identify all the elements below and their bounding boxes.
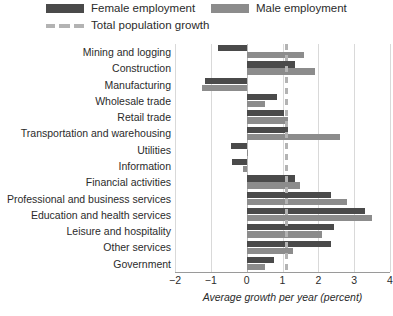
legend-swatch-male-icon (211, 4, 249, 13)
bar-male (247, 101, 265, 107)
legend-label-male: Male employment (256, 3, 347, 15)
bar-row (175, 44, 390, 60)
category-label: Leisure and hospitality (0, 223, 171, 239)
legend-label-female: Female employment (91, 3, 195, 15)
bar-female (247, 224, 335, 230)
x-tick-label: 4 (387, 274, 393, 286)
bar-row (175, 223, 390, 239)
bar-row (175, 174, 390, 190)
x-axis-line (175, 272, 390, 273)
bar-male (247, 199, 347, 205)
bar-female (247, 94, 277, 100)
plot-area (175, 44, 390, 272)
bar-row (175, 109, 390, 125)
legend-item-total-population-growth: Total population growth (46, 20, 209, 32)
bar-female (247, 208, 365, 214)
bar-male (247, 182, 301, 188)
bar-row (175, 125, 390, 141)
bar-row (175, 256, 390, 272)
bar-female (231, 143, 247, 149)
category-label: Wholesale trade (0, 93, 171, 109)
bar-row (175, 60, 390, 76)
bar-row (175, 239, 390, 255)
x-tick-label: −1 (205, 274, 217, 286)
bar-row (175, 158, 390, 174)
category-label: Other services (0, 239, 171, 255)
category-label: Financial activities (0, 174, 171, 190)
bar-row (175, 191, 390, 207)
bar-female (247, 257, 274, 263)
bar-female (218, 45, 247, 51)
legend-label-total: Total population growth (91, 20, 209, 32)
bar-female (247, 241, 331, 247)
bar-male (202, 85, 247, 91)
category-label: Information (0, 158, 171, 174)
bar-female (232, 159, 246, 165)
bar-male (243, 166, 247, 172)
category-label: Transportation and warehousing (0, 125, 171, 141)
x-tick-label: −2 (169, 274, 181, 286)
bar-male (247, 134, 340, 140)
bar-female (205, 78, 246, 84)
gridline-4 (390, 44, 391, 272)
total-population-growth-reference-line (285, 44, 288, 272)
category-label: Government (0, 256, 171, 272)
bar-row (175, 77, 390, 93)
x-tick-label: 3 (351, 274, 357, 286)
bar-female (247, 127, 288, 133)
bar-male (247, 52, 304, 58)
category-axis-labels: Mining and loggingConstructionManufactur… (0, 44, 171, 272)
bar-rows (175, 44, 390, 272)
legend-item-female-employment: Female employment (46, 3, 195, 15)
category-label: Construction (0, 60, 171, 76)
legend-swatch-dashed-line-icon (46, 21, 84, 30)
bar-male (247, 117, 288, 123)
bar-male (247, 150, 249, 156)
category-label: Education and health services (0, 207, 171, 223)
x-tick-label: 1 (280, 274, 286, 286)
category-label: Mining and logging (0, 44, 171, 60)
bar-row (175, 207, 390, 223)
category-label: Manufacturing (0, 77, 171, 93)
bar-male (247, 215, 372, 221)
bar-row (175, 142, 390, 158)
bar-male (247, 68, 315, 74)
legend-item-male-employment: Male employment (211, 3, 347, 15)
x-tick-label: 0 (244, 274, 250, 286)
x-tick-label: 2 (315, 274, 321, 286)
bar-female (247, 192, 331, 198)
bar-male (247, 264, 265, 270)
bar-row (175, 93, 390, 109)
category-label: Professional and business services (0, 191, 171, 207)
category-label: Retail trade (0, 109, 171, 125)
legend-swatch-female-icon (46, 4, 84, 13)
chart-legend: Female employment Male employment Total … (0, 0, 392, 40)
category-label: Utilities (0, 142, 171, 158)
bar-female (247, 110, 285, 116)
x-axis-title: Average growth per year (percent) (175, 291, 390, 303)
